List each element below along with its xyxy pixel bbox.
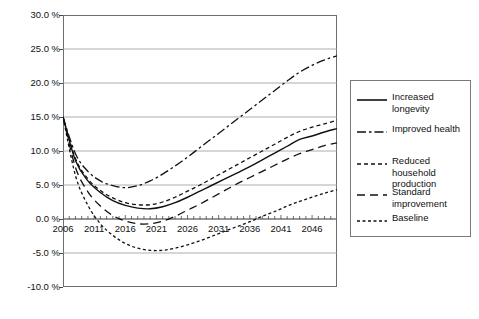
chart-legend: Increased longevityImproved healthReduce…: [350, 80, 471, 237]
y-axis-tick-label: 20.0 %: [0, 78, 60, 88]
legend-item-label: Increased longevity: [392, 91, 470, 114]
y-axis-tick-mark: [59, 253, 63, 254]
legend-item-label: Baseline: [392, 212, 428, 224]
y-axis-tick-label: -5.0 %: [0, 248, 60, 258]
series-line: [63, 117, 337, 224]
chart-canvas: [63, 15, 337, 287]
x-axis-tick-label: 2016: [115, 224, 136, 234]
legend-item[interactable]: Increased longevity: [357, 91, 470, 114]
x-axis-tick-label: 2046: [302, 224, 323, 234]
y-axis-tick-label: 0.0 %: [0, 214, 60, 224]
plot-area: [63, 15, 337, 287]
y-axis-tick-label: 5.0 %: [0, 180, 60, 190]
chart-root: Increased longevityImproved healthReduce…: [0, 0, 479, 319]
series-line: [63, 56, 337, 188]
y-axis-tick-label: 15.0 %: [0, 112, 60, 122]
y-axis-tick-label: 30.0 %: [0, 10, 60, 20]
series-line: [63, 117, 337, 209]
y-axis-tick-mark: [59, 15, 63, 16]
legend-key-icon: [357, 92, 387, 104]
y-axis-tick-mark: [59, 83, 63, 84]
y-axis-tick-mark: [59, 219, 63, 220]
x-axis-tick-label: 2006: [52, 224, 73, 234]
y-axis-tick-label: -10.0 %: [0, 282, 60, 292]
y-axis-tick-label: 10.0 %: [0, 146, 60, 156]
x-axis-tick-label: 2011: [84, 224, 104, 234]
legend-item[interactable]: Standard improvement: [357, 186, 470, 209]
y-axis-tick-mark: [59, 49, 63, 50]
y-axis-tick-mark: [59, 117, 63, 118]
legend-key-icon: [357, 213, 387, 225]
legend-item[interactable]: Reduced household production: [357, 155, 470, 190]
x-axis-tick-label: 2021: [146, 224, 167, 234]
legend-key-icon: [357, 156, 387, 168]
legend-item[interactable]: Baseline: [357, 212, 428, 225]
x-axis-tick-label: 2041: [270, 224, 291, 234]
x-axis-tick-label: 2036: [239, 224, 260, 234]
y-axis-tick-mark: [59, 185, 63, 186]
legend-item[interactable]: Improved health: [357, 123, 460, 136]
legend-key-icon: [357, 187, 387, 199]
legend-item-label: Improved health: [392, 123, 460, 135]
y-axis-tick-label: 25.0 %: [0, 44, 60, 54]
legend-key-icon: [357, 124, 387, 136]
y-axis-tick-mark: [59, 287, 63, 288]
y-axis-tick-mark: [59, 151, 63, 152]
x-axis-tick-label: 2026: [177, 224, 198, 234]
x-axis-tick-label: 2031: [208, 224, 229, 234]
legend-item-label: Reduced household production: [392, 155, 470, 190]
legend-item-label: Standard improvement: [392, 186, 470, 209]
